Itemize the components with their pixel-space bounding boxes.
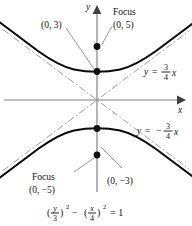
vertex-bottom-coordinate: (0, −3)	[107, 176, 133, 187]
vertex-top-coordinate: (0, 3)	[41, 20, 62, 31]
point-focus-top	[94, 43, 101, 50]
asymptote-positive-variable: x	[171, 68, 177, 78]
equation-exponent-1: 2	[66, 203, 69, 210]
leader-vertex-bottom	[101, 147, 122, 168]
asymptote-negative-label: y = − 3 4 x	[136, 122, 179, 141]
equation-denominator-1: 3	[53, 214, 57, 223]
equation-equals-one: = 1	[110, 207, 123, 218]
point-vertex-top	[94, 68, 101, 75]
equation-open-paren-1: (	[47, 207, 51, 219]
focus-top-coordinate: (0, 5)	[113, 20, 134, 31]
asymptote-positive-numerator: 3	[164, 63, 168, 72]
asymptote-negative-numerator: 3	[166, 122, 170, 131]
equation-numerator-2: x	[89, 204, 94, 213]
asymptote-positive-y: y	[143, 67, 149, 77]
equation-denominator-2: 4	[90, 214, 94, 223]
asymptote-positive-equals: =	[152, 67, 157, 77]
leader-focus-top	[102, 27, 113, 46]
equation-minus: −	[72, 207, 78, 218]
x-axis-arrowhead	[177, 96, 186, 105]
asymptote-negative-denominator: 4	[166, 132, 170, 141]
point-vertex-bottom	[94, 125, 101, 132]
focus-top-label: Focus	[113, 7, 136, 17]
asymptote-negative-equals: =	[145, 126, 150, 136]
leader-vertex-top	[66, 28, 94, 69]
asymptote-positive-slope	[3, 31, 189, 171]
equation-numerator-1: y	[52, 204, 57, 213]
hyperbola-figure: y x Focus (0, 5) (0, 3) (0, −3) Focus (0…	[0, 0, 192, 226]
equation-close-paren-1: )	[60, 207, 63, 219]
point-focus-bottom	[94, 152, 101, 159]
asymptote-negative-slope	[3, 30, 189, 170]
asymptote-negative-y: y	[136, 126, 142, 136]
focus-bottom-label: Focus	[32, 172, 55, 182]
asymptote-negative-sign: −	[156, 126, 161, 136]
asymptote-negative-variable: x	[173, 127, 179, 137]
y-axis-arrowhead	[93, 5, 102, 14]
equation-open-paren-2: (	[84, 207, 88, 219]
asymptote-positive-label: y = 3 4 x	[143, 63, 177, 82]
leader-focus-bottom	[74, 158, 94, 172]
hyperbola-equation: ( y 3 ) 2 − ( x 4 ) 2 = 1	[47, 203, 123, 223]
x-axis-label: x	[177, 105, 183, 115]
asymptote-positive-denominator: 4	[164, 73, 168, 82]
equation-close-paren-2: )	[97, 207, 100, 219]
equation-exponent-2: 2	[103, 203, 106, 210]
y-axis-label: y	[85, 2, 91, 12]
focus-bottom-coordinate: (0, −5)	[29, 185, 55, 196]
